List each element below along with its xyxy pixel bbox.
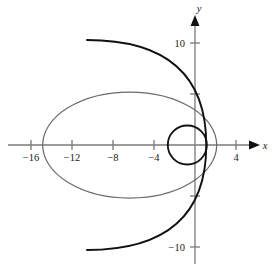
y-axis-arrowhead bbox=[191, 15, 200, 26]
y-tick-label-minus10: −10 bbox=[169, 242, 185, 253]
x-tick-label-minus16: −16 bbox=[23, 152, 39, 163]
x-tick-label-minus12: −12 bbox=[64, 152, 80, 163]
y-axis-label: y bbox=[196, 3, 202, 14]
x-axis-arrowhead bbox=[249, 141, 260, 150]
y-tick-label-10: 10 bbox=[175, 38, 186, 49]
x-tick-label-minus8: −8 bbox=[107, 152, 118, 163]
x-axis-label: x bbox=[262, 140, 268, 151]
x-tick-label-4: 4 bbox=[233, 152, 239, 163]
x-tick-label-minus4: −4 bbox=[148, 152, 160, 163]
coordinate-plot: −16 −12 −8 −4 4 10 −10 x y bbox=[0, 0, 278, 271]
